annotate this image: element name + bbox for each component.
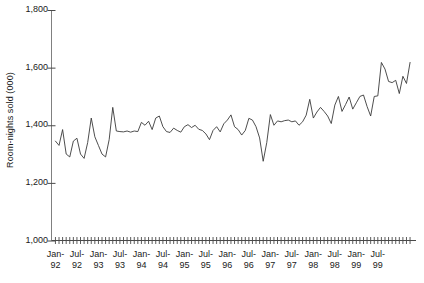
x-axis-tick-labels: Jan-92Jul-92Jan-93Jul-93Jan-94Jul-94Jan-… <box>0 249 424 283</box>
chart-container: Room-nights sold (000) 1,0001,2001,4001,… <box>0 0 424 283</box>
x-axis-tick-label: Jul-99 <box>361 249 395 271</box>
x-axis-tick-label-year: 99 <box>361 260 395 271</box>
data-series-line <box>55 62 410 161</box>
plot-area <box>0 0 424 283</box>
x-axis-tick-label-month: Jul- <box>361 249 395 260</box>
axes <box>48 10 417 244</box>
